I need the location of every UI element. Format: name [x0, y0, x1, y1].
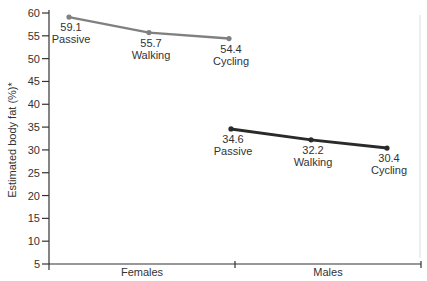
y-tick-label: 50: [28, 53, 40, 65]
point-value-label: 54.4: [220, 43, 241, 55]
data-point: [66, 15, 71, 20]
y-tick-label: 15: [28, 212, 40, 224]
y-tick-label: 5: [34, 258, 40, 270]
data-point: [146, 30, 151, 35]
point-value-label: 59.1: [60, 21, 81, 33]
point-category-label: Cycling: [371, 164, 407, 176]
y-tick-label: 30: [28, 144, 40, 156]
y-tick-label: 45: [28, 75, 40, 87]
line-chart: 51015202530354045505560Estimated body fa…: [0, 0, 427, 281]
category-label: Females: [121, 266, 164, 278]
point-value-label: 55.7: [140, 37, 161, 49]
point-category-label: Passive: [52, 33, 91, 45]
data-point: [308, 137, 313, 142]
point-category-label: Cycling: [213, 55, 249, 67]
point-category-label: Walking: [294, 156, 333, 168]
y-tick-label: 35: [28, 121, 40, 133]
point-value-label: 34.6: [222, 133, 243, 145]
series-line: [69, 17, 229, 38]
point-category-label: Walking: [132, 49, 171, 61]
point-value-label: 30.4: [378, 152, 399, 164]
y-tick-label: 60: [28, 7, 40, 19]
y-tick-label: 10: [28, 235, 40, 247]
data-point: [384, 145, 389, 150]
y-tick-label: 25: [28, 167, 40, 179]
category-label: Males: [313, 266, 343, 278]
point-category-label: Passive: [214, 145, 253, 157]
y-tick-label: 55: [28, 30, 40, 42]
y-tick-label: 40: [28, 98, 40, 110]
y-axis-label: Estimated body fat (%)*: [6, 82, 18, 198]
y-tick-label: 20: [28, 190, 40, 202]
data-point: [228, 126, 233, 131]
point-value-label: 32.2: [302, 144, 323, 156]
data-point: [226, 36, 231, 41]
